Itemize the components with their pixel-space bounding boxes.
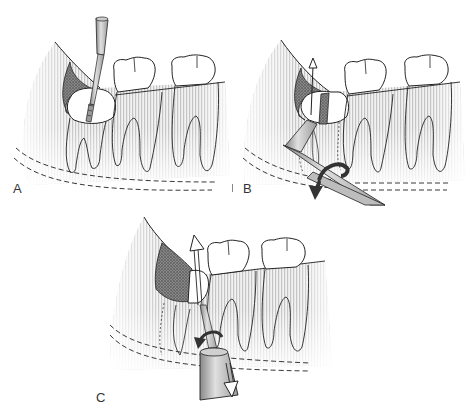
- first-molar-crown: [172, 55, 216, 86]
- edge-mark: [232, 184, 233, 192]
- first-molar-crown: [262, 238, 306, 269]
- panel-label-c: C: [96, 390, 105, 405]
- tissue-flap: [155, 243, 192, 302]
- panel-b-illustration: [235, 0, 470, 205]
- panel-label-b: B: [243, 181, 252, 196]
- panel-c-illustration: [110, 205, 360, 411]
- panel-a-illustration: [0, 0, 235, 205]
- panel-label-a: A: [13, 181, 22, 196]
- section-cut: [319, 93, 329, 124]
- first-molar-crown: [405, 55, 449, 86]
